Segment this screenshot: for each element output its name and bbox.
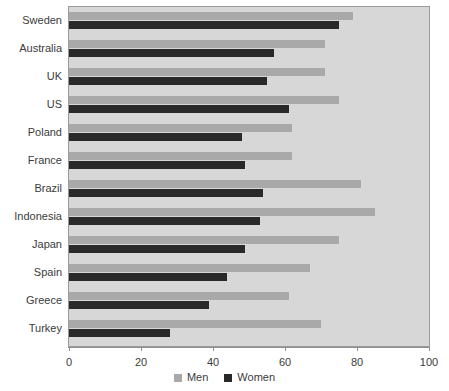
bar-women [69,217,260,225]
bar-women [69,245,245,253]
x-axis-tick-label: 80 [351,356,363,368]
category-label: Indonesia [0,211,62,222]
bar-row [69,261,429,289]
bar-women [69,21,339,29]
bar-rows [69,7,429,346]
bar-row [69,233,429,261]
bar-men [69,264,310,272]
category-label: Poland [0,127,62,138]
legend-label: Men [187,372,208,383]
x-axis-tick-label: 100 [420,356,438,368]
bar-women [69,273,227,281]
x-axis-tick-label: 60 [279,356,291,368]
category-label: Greece [0,295,62,306]
x-axis-tick-label: 0 [66,356,72,368]
category-axis-labels: SwedenAustraliaUKUSPolandFranceBrazilInd… [0,6,62,347]
bar-row [69,149,429,177]
legend-label: Women [237,372,275,383]
x-axis-tick-label: 40 [207,356,219,368]
legend-swatch-icon [224,374,232,382]
bar-women [69,77,267,85]
bar-row [69,317,429,345]
plot-area [68,6,430,347]
bar-row [69,9,429,37]
chart-legend: MenWomen [0,372,449,383]
x-axis-tick-label: 20 [135,356,147,368]
bar-women [69,133,242,141]
category-label: Japan [0,239,62,250]
category-label: UK [0,71,62,82]
bar-men [69,292,289,300]
bar-men [69,180,361,188]
category-label: France [0,155,62,166]
category-label: Brazil [0,183,62,194]
category-label: US [0,99,62,110]
category-label: Turkey [0,323,62,334]
legend-item: Women [224,372,275,383]
bar-chart: SwedenAustraliaUKUSPolandFranceBrazilInd… [0,0,449,391]
bar-men [69,124,292,132]
legend-swatch-icon [174,374,182,382]
bar-women [69,49,274,57]
category-label: Spain [0,267,62,278]
bar-row [69,93,429,121]
bar-men [69,68,325,76]
bar-men [69,320,321,328]
bar-women [69,301,209,309]
bar-men [69,96,339,104]
x-axis-tick-labels: 020406080100 [68,349,430,367]
legend-item: Men [174,372,208,383]
bar-men [69,152,292,160]
bar-row [69,37,429,65]
bar-men [69,40,325,48]
bar-row [69,65,429,93]
x-axis-line [68,347,430,348]
bar-men [69,236,339,244]
bar-women [69,329,170,337]
category-label: Sweden [0,15,62,26]
bar-row [69,289,429,317]
bar-men [69,12,353,20]
bar-row [69,177,429,205]
bar-row [69,121,429,149]
bar-women [69,105,289,113]
bar-row [69,205,429,233]
bar-women [69,161,245,169]
bar-men [69,208,375,216]
bar-women [69,189,263,197]
category-label: Australia [0,43,62,54]
